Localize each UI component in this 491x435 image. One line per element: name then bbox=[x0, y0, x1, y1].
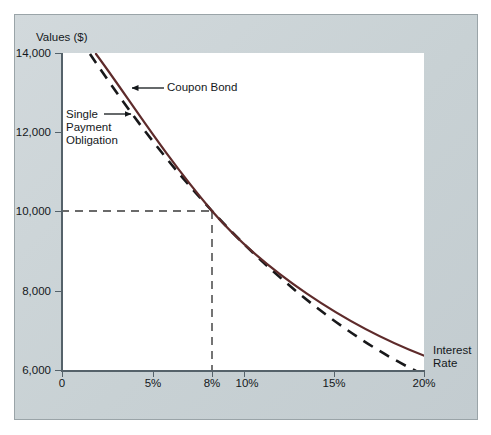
annotation-single-payment-obligation: Single Payment Obligation bbox=[66, 108, 118, 147]
x-tick-8 bbox=[212, 370, 213, 377]
chart-figure: 14,000 12,000 10,000 8,000 6,000 0 5% 8%… bbox=[0, 0, 491, 435]
series-single-payment-obligation bbox=[90, 54, 420, 370]
x-tick-label-0: 0 bbox=[59, 377, 65, 389]
x-axis-line bbox=[61, 370, 425, 372]
plot-area bbox=[62, 53, 424, 370]
x-tick-10 bbox=[244, 370, 245, 377]
y-axis-line bbox=[61, 53, 63, 372]
annotation-single-line2: Payment bbox=[66, 121, 111, 133]
annotation-single-line3: Obligation bbox=[66, 134, 118, 146]
y-tick-8000 bbox=[55, 291, 62, 292]
x-tick-label-10: 10% bbox=[235, 377, 258, 389]
x-tick-label-20: 20% bbox=[412, 377, 435, 389]
annotation-coupon-bond: Coupon Bond bbox=[167, 81, 237, 94]
x-tick-label-8: 8% bbox=[204, 377, 221, 389]
x-axis-title-line1: Interest bbox=[433, 344, 471, 356]
y-tick-12000 bbox=[55, 132, 62, 133]
y-tick-label-10000: 10,000 bbox=[3, 205, 51, 217]
series-coupon-bond bbox=[96, 54, 424, 356]
y-tick-14000 bbox=[55, 53, 62, 54]
y-tick-6000 bbox=[55, 370, 62, 371]
y-tick-label-8000: 8,000 bbox=[3, 285, 51, 297]
annotation-single-line1: Single bbox=[66, 108, 98, 120]
x-tick-label-15: 15% bbox=[322, 377, 345, 389]
y-tick-10000 bbox=[55, 211, 62, 212]
plot-svg bbox=[62, 53, 424, 370]
x-tick-15 bbox=[334, 370, 335, 377]
x-axis-title: Interest Rate bbox=[433, 344, 471, 370]
y-tick-label-14000: 14,000 bbox=[3, 47, 51, 59]
x-axis-title-line2: Rate bbox=[433, 357, 457, 369]
y-tick-label-6000: 6,000 bbox=[3, 364, 51, 376]
y-axis-title: Values ($) bbox=[36, 31, 88, 43]
y-tick-label-12000: 12,000 bbox=[3, 126, 51, 138]
x-tick-label-5: 5% bbox=[145, 377, 162, 389]
x-tick-5 bbox=[153, 370, 154, 377]
x-tick-0 bbox=[62, 370, 63, 377]
x-tick-20 bbox=[424, 370, 425, 377]
